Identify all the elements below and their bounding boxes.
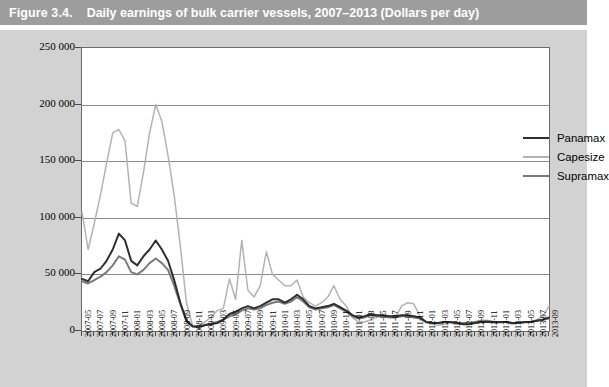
x-axis-tick-label: 2013-01 [502, 310, 511, 337]
y-axis-tick-label: 100 000 [5, 210, 75, 222]
x-axis-tick-label: 2011-05 [379, 310, 388, 337]
x-axis-tick-label: 2007-09 [109, 310, 118, 337]
x-axis-tick-label: 2011-03 [367, 310, 376, 337]
chart-panel: 050 000100 000150 000200 000250 000 Pana… [0, 30, 587, 387]
y-axis-tick-label: 150 000 [5, 153, 75, 165]
x-axis-tick-label: 2011-11 [416, 311, 425, 337]
legend-item-capesize: Capesize [523, 149, 609, 164]
x-axis-tick-label: 2013-07 [539, 310, 548, 337]
x-axis-tick [253, 332, 254, 336]
x-axis-tick-label: 2010-01 [281, 310, 290, 337]
x-axis-tick [167, 332, 168, 336]
x-axis-tick-label: 2012-07 [465, 310, 474, 337]
x-axis-tick-label: 2008-11 [195, 310, 204, 337]
x-axis-tick-label: 2010-09 [330, 310, 339, 337]
x-axis-tick [302, 332, 303, 336]
legend-swatch-capesize [523, 156, 549, 158]
x-axis-tick [351, 332, 352, 336]
x-axis-tick [179, 332, 180, 336]
x-axis-tick [474, 332, 475, 336]
x-axis-tick-label: 2009-03 [219, 310, 228, 337]
x-axis-tick-label: 2009-07 [244, 310, 253, 337]
x-axis-tick-label: 2013-09 [551, 310, 560, 337]
legend-swatch-supramax [523, 175, 549, 177]
x-axis-tick [388, 332, 389, 336]
x-axis-tick [487, 332, 488, 336]
figure-title-bar: Figure 3.4. Daily earnings of bulk carri… [0, 0, 587, 25]
x-axis-tick-label: 2012-01 [428, 310, 437, 337]
x-axis-tick [228, 332, 229, 336]
x-axis-tick-label: 2011-07 [391, 310, 400, 337]
x-axis-tick [93, 332, 94, 336]
x-axis-tick [81, 332, 82, 336]
x-axis-tick-label: 2009-11 [269, 310, 278, 337]
x-axis-tick [511, 332, 512, 336]
x-axis-tick [462, 332, 463, 336]
x-axis-tick [425, 332, 426, 336]
x-axis-tick [548, 332, 549, 336]
x-axis-tick [401, 332, 402, 336]
figure-caption: Daily earnings of bulk carrier vessels, … [87, 6, 480, 20]
x-axis-tick-label: 2008-07 [170, 310, 179, 337]
x-axis-tick [130, 332, 131, 336]
figure-number: Figure 3.4. [9, 6, 73, 20]
legend-item-panamax: Panamax [523, 130, 609, 145]
legend-label-panamax: Panamax [557, 132, 605, 144]
x-axis-tick-label: 2010-07 [318, 310, 327, 337]
x-axis-tick [265, 332, 266, 336]
x-axis-tick-label: 2012-11 [490, 310, 499, 337]
x-axis-tick [106, 332, 107, 336]
x-axis-tick-label: 2010-03 [293, 310, 302, 337]
x-axis-tick-label: 2010-05 [305, 310, 314, 337]
y-axis-tick-label: 200 000 [5, 97, 75, 109]
y-axis-tick-label: 50 000 [5, 266, 75, 278]
x-axis-tick-label: 2010-11 [342, 310, 351, 337]
x-axis-tick-label: 2012-03 [441, 310, 450, 337]
legend-swatch-panamax [523, 137, 549, 139]
x-axis-tick [523, 332, 524, 336]
x-axis-tick [118, 332, 119, 336]
x-axis-tick-label: 2012-05 [453, 310, 462, 337]
legend-label-capesize: Capesize [557, 151, 605, 163]
x-axis-tick [216, 332, 217, 336]
x-axis-tick-label: 2008-05 [158, 310, 167, 337]
x-axis-tick-label: 2013-03 [514, 310, 523, 337]
x-axis-tick-label: 2011-09 [404, 310, 413, 337]
x-axis-tick [142, 332, 143, 336]
x-axis-tick-label: 2008-09 [183, 310, 192, 337]
series-lines [82, 48, 549, 331]
plot-area: Panamax Capesize Supramax [81, 47, 550, 332]
x-axis-tick-label: 2012-09 [477, 310, 486, 337]
x-axis-tick-label: 2009-01 [207, 310, 216, 337]
legend-item-supramax: Supramax [523, 168, 609, 183]
x-axis-tick-label: 2007-11 [121, 310, 130, 337]
x-axis-tick-label: 2008-03 [146, 310, 155, 337]
x-axis-tick-label: 2008-01 [133, 310, 142, 337]
x-axis-tick-label: 2009-09 [256, 310, 265, 337]
x-axis-tick-label: 2011-01 [355, 310, 364, 337]
x-axis-tick [339, 332, 340, 336]
x-axis-tick [290, 332, 291, 336]
x-axis-tick-label: 2007-05 [84, 310, 93, 337]
x-axis-tick-label: 2007-07 [96, 310, 105, 337]
x-axis-tick [204, 332, 205, 336]
legend-label-supramax: Supramax [557, 170, 609, 182]
x-axis-tick-label: 2013-05 [527, 310, 536, 337]
x-axis-tick [315, 332, 316, 336]
x-axis-tick [376, 332, 377, 336]
chart-legend: Panamax Capesize Supramax [523, 130, 609, 183]
series-line-capesize [82, 105, 549, 327]
y-axis-tick-label: 250 000 [5, 40, 75, 52]
x-axis-tick [437, 332, 438, 336]
y-axis-tick-label: 0 [5, 323, 75, 335]
x-axis-tick-label: 2009-05 [232, 310, 241, 337]
